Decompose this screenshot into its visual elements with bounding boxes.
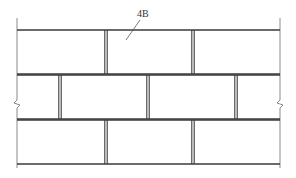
callout-label-4b: 4B <box>137 9 149 19</box>
break-mark-icon <box>277 100 283 108</box>
brick-wall-diagram <box>0 0 296 178</box>
break-mark-icon <box>14 100 20 108</box>
